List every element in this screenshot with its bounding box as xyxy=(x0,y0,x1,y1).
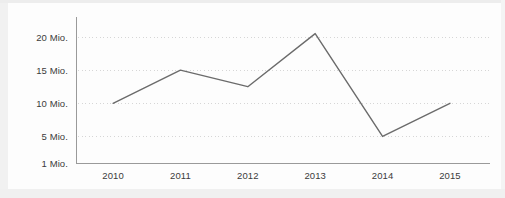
x-tick-label-2012: 2012 xyxy=(237,170,259,181)
line-chart-figure: 1 Mio.5 Mio.10 Mio.15 Mio.20 Mio. 201020… xyxy=(0,0,505,198)
x-tick-label-2015: 2015 xyxy=(439,170,461,181)
x-axis-tick-labels: 201020112012201320142015 xyxy=(0,0,505,198)
x-tick-label-2011: 2011 xyxy=(170,170,191,181)
x-tick-label-2010: 2010 xyxy=(102,170,124,181)
x-tick-label-2013: 2013 xyxy=(304,170,326,181)
x-tick-label-2014: 2014 xyxy=(372,170,394,181)
